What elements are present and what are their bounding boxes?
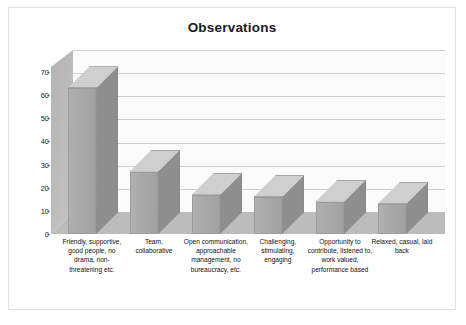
y-axis-tick-label: 70 [27, 68, 49, 77]
gridline [73, 166, 445, 167]
chart-frame: Observations 010203040506070 Friendly, s… [8, 7, 456, 310]
bar-side-face [96, 66, 118, 234]
y-axis-tick-label: 10 [27, 207, 49, 216]
gridline [73, 73, 445, 74]
bar [192, 195, 221, 234]
chart-title: Observations [9, 20, 455, 35]
bar [378, 204, 407, 234]
gridline [73, 96, 445, 97]
bar-front-face [316, 202, 345, 234]
bar-front-face [254, 197, 283, 234]
bar [254, 197, 283, 234]
gridline [73, 50, 445, 51]
category-label: Team, collaborative [126, 237, 182, 255]
category-label: Opportunity to contribute, listened to, … [305, 237, 375, 274]
category-label: Relaxed, casual, laid back [371, 237, 433, 255]
gridline [73, 143, 445, 144]
bar [130, 172, 159, 234]
bar-front-face [192, 195, 221, 234]
bar [316, 202, 345, 234]
y-axis-tick-label: 20 [27, 184, 49, 193]
bar [68, 88, 97, 234]
bar-front-face [378, 204, 407, 234]
y-axis-tick-label: 30 [27, 161, 49, 170]
category-label: Friendly, supportive, good people, no dr… [59, 237, 125, 274]
y-axis-tick-label: 50 [27, 114, 49, 123]
plot-area: 010203040506070 [21, 44, 445, 234]
bar-front-face [68, 88, 97, 234]
category-axis-labels: Friendly, supportive, good people, no dr… [21, 237, 445, 325]
category-label: Challenging, stimulating, engaging [249, 237, 307, 265]
y-axis-tick-label: 60 [27, 91, 49, 100]
bar-front-face [130, 172, 159, 234]
category-label: Open communication, approachable managem… [179, 237, 253, 274]
y-axis-tick-label: 40 [27, 137, 49, 146]
gridline [73, 119, 445, 120]
